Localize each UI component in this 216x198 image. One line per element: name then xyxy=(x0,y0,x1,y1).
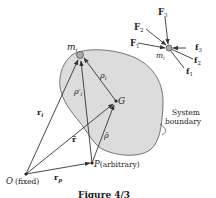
label-f3: f3 xyxy=(195,42,202,53)
force-f1-line xyxy=(170,50,184,68)
label-boundary: boundary xyxy=(165,117,202,126)
label-P-arbitrary: P(arbitrary) xyxy=(93,159,140,169)
vector-r-i xyxy=(26,60,78,174)
label-rho-bar: ρ̄ xyxy=(103,131,109,140)
force-f2-line xyxy=(171,49,193,59)
label-f2: f2 xyxy=(194,55,201,66)
label-F3: F3 xyxy=(158,7,168,18)
label-O-fixed: O(fixed) xyxy=(6,176,39,186)
label-G: G xyxy=(118,96,125,106)
label-r-p: rp xyxy=(54,172,62,184)
force-F2-arrow xyxy=(146,29,166,45)
label-f1: f1 xyxy=(186,66,193,77)
label-r-i: ri xyxy=(37,107,43,118)
point-O xyxy=(24,172,27,175)
label-system: System xyxy=(172,108,200,117)
force-F1-arrow xyxy=(138,43,165,48)
figure-caption: Figure 4/3 xyxy=(78,190,130,198)
system-of-particles-diagram: mi G ρi ρ′i ri r̄ ρ̄ rp O(fixed) P(arbit… xyxy=(0,0,216,198)
force-F3-arrow xyxy=(165,17,168,44)
label-F1: F1 xyxy=(130,38,140,49)
particle-m-i xyxy=(77,52,84,59)
label-m-i: mi xyxy=(67,42,78,53)
label-F2: F2 xyxy=(134,22,144,33)
inset-particle xyxy=(166,45,172,51)
label-r-bar: r̄ xyxy=(72,134,77,144)
label-inset-m-i: mi xyxy=(156,51,165,61)
